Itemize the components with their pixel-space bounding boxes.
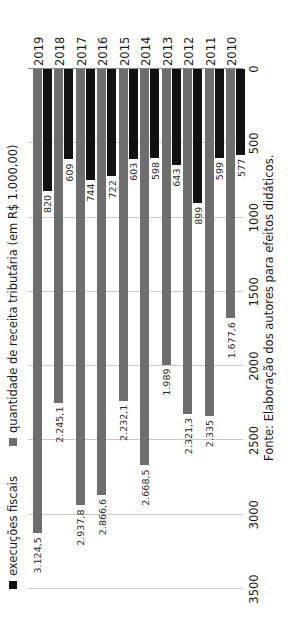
category-label-2017: 2017 (75, 37, 89, 66)
x-axis-tick: 500 (247, 132, 261, 154)
bar-execucoes-fiscais (43, 69, 52, 191)
bar-value-label-execucoes: 603 (128, 163, 139, 589)
bar-execucoes-fiscais (129, 69, 138, 159)
bar-receita-tributaria (162, 69, 171, 365)
category-label-2012: 2012 (182, 37, 196, 66)
bar-receita-tributaria (33, 69, 42, 533)
category-label-2019: 2019 (32, 37, 46, 66)
legend-item-receita-tributaria: quantidade de receita tributária (em R$ … (6, 144, 20, 446)
x-axis-tick: 2500 (247, 426, 261, 455)
bar-execucoes-fiscais (193, 69, 202, 203)
bar-value-label-execucoes: 899 (192, 207, 203, 589)
bar-receita-tributaria (119, 69, 128, 401)
legend-swatch-icon-gray (9, 438, 17, 446)
legend-item-execucoes-fiscais: execuções fiscais (6, 476, 20, 589)
category-label-2011: 2011 (204, 37, 218, 66)
x-axis-tick: 1500 (247, 277, 261, 306)
x-axis-tick: 0 (247, 65, 261, 72)
bar-value-label-execucoes: 744 (85, 184, 96, 589)
bar-execucoes-fiscais (172, 69, 181, 165)
category-label-2018: 2018 (53, 37, 67, 66)
bar-value-label-execucoes: 577 (235, 159, 246, 589)
legend-label-receita-tributaria: quantidade de receita tributária (em R$ … (6, 144, 20, 433)
bar-receita-tributaria (140, 69, 149, 465)
category-label-2016: 2016 (96, 37, 110, 66)
bar-value-label-execucoes: 599 (214, 162, 225, 589)
x-axis-tick: 2000 (247, 352, 261, 381)
bar-receita-tributaria (183, 69, 192, 414)
x-axis-tick: 3000 (247, 500, 261, 529)
bar-execucoes-fiscais (107, 69, 116, 176)
bar-value-label-execucoes: 598 (149, 162, 160, 589)
bar-execucoes-fiscais (86, 69, 95, 180)
bar-receita-tributaria (97, 69, 106, 495)
bar-receita-tributaria (205, 69, 214, 416)
bar-receita-tributaria (226, 69, 235, 318)
category-label-2010: 2010 (225, 37, 239, 66)
legend-label-execucoes-fiscais: execuções fiscais (6, 476, 20, 576)
bar-execucoes-fiscais (64, 69, 73, 159)
x-axis-tick: 1000 (247, 203, 261, 232)
bar-value-label-execucoes: 609 (63, 163, 74, 589)
bar-value-label-execucoes: 820 (42, 195, 53, 589)
category-axis-labels: 2010201120122013201420152016201720182019 (28, 20, 243, 66)
x-axis-tick: 3500 (247, 574, 261, 603)
source-note: Fonte: Elaboração dos autores para efeit… (262, 155, 276, 461)
bar-value-label-execucoes: 722 (106, 180, 117, 589)
plot-area: 1.677,65772.3355992.321,38991.9896432.66… (28, 69, 243, 589)
legend-swatch-icon-dark (9, 581, 17, 589)
bar-receita-tributaria (76, 69, 85, 505)
bar-execucoes-fiscais (150, 69, 159, 158)
bar-execucoes-fiscais (215, 69, 224, 158)
bar-receita-tributaria (54, 69, 63, 403)
category-label-2014: 2014 (139, 37, 153, 66)
category-label-2015: 2015 (118, 37, 132, 66)
rotated-chart-canvas: execuções fiscais quantidade de receita … (0, 0, 288, 629)
category-label-2013: 2013 (161, 37, 175, 66)
bar-value-label-execucoes: 643 (171, 169, 182, 589)
bar-execucoes-fiscais (236, 69, 245, 155)
chart-legend: execuções fiscais quantidade de receita … (6, 144, 20, 589)
